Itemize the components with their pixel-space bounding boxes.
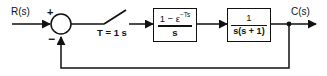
summing-junction-plus-sign: + [47,7,53,18]
zoh-numerator-exponent: −Ts [180,11,190,18]
zoh-numerator: 1 − ε−Ts [158,12,193,26]
sampler-switch-blade [104,10,126,24]
zoh-fraction: 1 − ε−Ts s [158,12,193,38]
summing-junction-minus-sign: − [48,33,55,45]
zoh-denominator: s [170,27,179,38]
sampler-period-label: T = 1 s [97,28,127,38]
transfer-function-block-zero-order-hold: 1 − ε−Ts s [153,8,197,42]
summing-junction-circle [51,14,71,34]
plant-denominator: s(s + 1) [231,26,266,37]
block-diagram-canvas: R(s) C(s) + − T = 1 s 1 − ε−Ts s 1 s(s +… [0,0,327,76]
plant-numerator: 1 [244,13,253,24]
output-signal-label: C(s) [291,7,310,17]
zoh-numerator-base: 1 − ε [160,13,180,24]
plant-fraction: 1 s(s + 1) [231,13,266,37]
input-signal-label: R(s) [11,7,30,17]
transfer-function-block-plant: 1 s(s + 1) [227,8,271,42]
